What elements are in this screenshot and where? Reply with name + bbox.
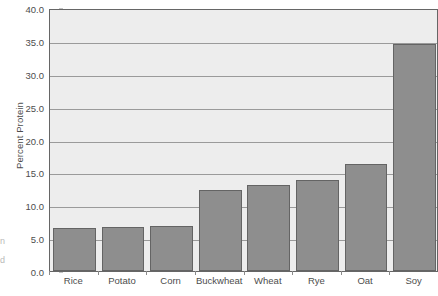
plot-area — [49, 9, 438, 272]
x-axis-tick-mark — [146, 271, 147, 275]
x-axis-tick-label: Potato — [108, 275, 135, 286]
y-axis-tick-label: 10.0 — [14, 201, 44, 212]
x-axis-tick-label: Rye — [308, 275, 325, 286]
bar — [296, 180, 339, 271]
bar — [150, 226, 193, 271]
x-axis-tick-label-group: RicePotatoCornBuckwheatWheatRyeOatSoy — [49, 275, 438, 295]
y-axis-tick-label: 25.0 — [14, 102, 44, 113]
bar — [53, 228, 96, 271]
y-axis-tick-label: 15.0 — [14, 168, 44, 179]
clipped-margin-text-fragment-1: n — [0, 236, 6, 246]
x-axis-tick-label: Oat — [357, 275, 372, 286]
bar-chart-figure: n d Percent Protein 0.05.010.015.020.025… — [0, 0, 438, 296]
x-axis-tick-mark — [244, 271, 245, 275]
x-axis-tick-mark — [389, 271, 390, 275]
x-axis-tick-label: Buckwheat — [196, 275, 242, 286]
bar — [199, 190, 242, 271]
y-axis-tick-label: 5.0 — [14, 234, 44, 245]
x-axis-tick-label: Soy — [406, 275, 422, 286]
bar — [102, 227, 145, 271]
x-axis-tick-label: Wheat — [254, 275, 281, 286]
bar — [345, 164, 388, 271]
x-axis-tick-mark — [49, 271, 50, 275]
x-axis-tick-mark — [341, 271, 342, 275]
bar — [247, 185, 290, 271]
y-axis-tick-label: 20.0 — [14, 135, 44, 146]
clipped-margin-text-fragment-2: d — [0, 255, 6, 265]
bar-group — [50, 10, 437, 271]
y-axis-tick-label: 30.0 — [14, 69, 44, 80]
y-axis-tick-label-group: 0.05.010.015.020.025.030.035.040.0 — [14, 0, 44, 296]
x-axis-tick-mark — [195, 271, 196, 275]
y-axis-tick-label: 35.0 — [14, 36, 44, 47]
x-axis-tick-label: Rice — [64, 275, 83, 286]
x-axis-tick-mark — [98, 271, 99, 275]
y-axis-tick-label: 0.0 — [14, 267, 44, 278]
x-axis-tick-label: Corn — [160, 275, 181, 286]
x-axis-tick-mark — [292, 271, 293, 275]
bar — [393, 44, 436, 271]
y-axis-tick-label: 40.0 — [14, 4, 44, 15]
